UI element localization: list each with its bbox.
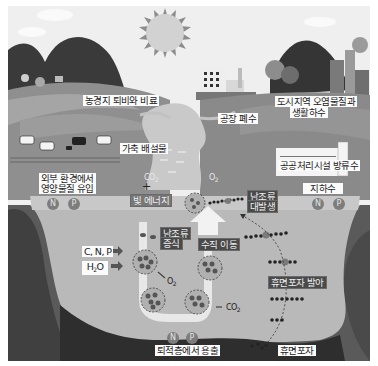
label-sediment-release: 퇴적층에서 용출 [155, 345, 220, 356]
nutrient-n-left: N [47, 198, 59, 210]
nutrient-p-left: P [68, 198, 80, 210]
label-algae-growth-2: 증식 [160, 237, 183, 250]
label-factory: 공장 폐수 [218, 113, 258, 124]
nutrient-n-bottom: N [167, 332, 179, 344]
label-livestock: 가축 배설물 [120, 143, 168, 154]
label-groundwater: 지하수 [303, 183, 343, 194]
eutrophication-diagram: 농경지 퇴비와 비료 가축 배설물 외부 환경에서 영양물질 유입 공장 폐수 … [0, 0, 378, 366]
label-akinete-germination: 휴면포자 발아 [268, 276, 327, 289]
nutrient-p-right: P [333, 198, 345, 210]
label-vertical-migration: 수직 이동 [198, 238, 240, 251]
label-co2-bottom: CO2 [224, 302, 242, 315]
label-h2o: H2O [82, 261, 108, 275]
nutrient-n-right: N [312, 198, 324, 210]
plus-sign: + [140, 181, 153, 192]
label-algae-bloom-2: 대발생 [247, 200, 278, 213]
nutrient-p-bottom: P [186, 332, 198, 344]
label-treatment: 공공처리시설 방류수 [278, 160, 360, 171]
label-o2-top: O2 [207, 172, 220, 185]
label-akinete: 휴면포자 [278, 345, 316, 356]
label-urban-2: 생활하수 [290, 107, 328, 118]
label-urban-1: 도시지역 오염물질과 [275, 96, 357, 107]
label-cnp: C, N, P [82, 246, 113, 257]
label-light-energy: 빛 에너지 [130, 194, 172, 207]
label-farmland: 농경지 퇴비와 비료 [83, 95, 159, 106]
label-o2-mid: O2 [165, 276, 178, 289]
label-external-inflow-2: 영양물질 유입 [39, 183, 96, 194]
